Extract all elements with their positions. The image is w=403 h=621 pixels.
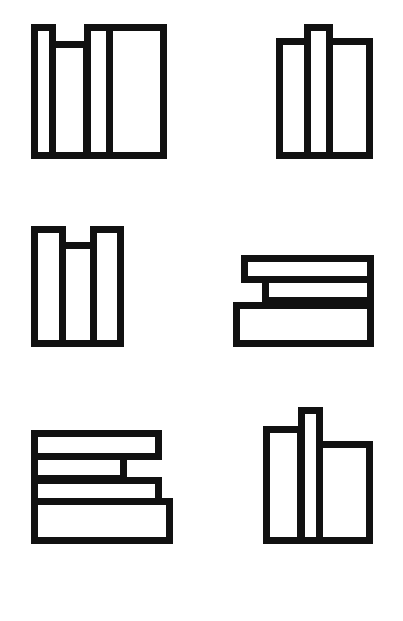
figure-1 bbox=[31, 24, 167, 159]
figure-6-block-3-interior bbox=[323, 448, 366, 537]
figure-3-block-1-interior bbox=[38, 233, 59, 340]
figure-6-block-2-interior bbox=[305, 414, 316, 537]
figures-group bbox=[31, 24, 374, 544]
figure-5-block-3-interior bbox=[38, 484, 155, 498]
figure-4-block-3-interior bbox=[240, 309, 367, 340]
figure-3-block-3-interior bbox=[97, 233, 117, 340]
figure-2-block-2-interior bbox=[311, 31, 326, 152]
figure-4-block-2-interior bbox=[269, 283, 367, 297]
figure-2-block-1-interior bbox=[283, 45, 304, 152]
figure-1-block-2-interior bbox=[56, 48, 83, 152]
figure-2 bbox=[276, 24, 373, 159]
figure-3-block-2-interior bbox=[66, 249, 90, 340]
figure-5-block-1-interior bbox=[38, 437, 155, 453]
figure-2-block-3-interior bbox=[333, 45, 366, 152]
figure-1-block-3-interior bbox=[91, 31, 106, 152]
figure-5-block-2-interior bbox=[38, 460, 120, 475]
figure-3 bbox=[31, 226, 124, 347]
figure-5-block-4-interior bbox=[38, 505, 166, 537]
block-figures-diagram bbox=[0, 0, 403, 621]
figure-4-block-1-interior bbox=[248, 262, 367, 276]
diagram-canvas bbox=[0, 0, 403, 621]
figure-4 bbox=[233, 255, 374, 347]
figure-6-block-1-interior bbox=[270, 433, 297, 537]
figure-6 bbox=[263, 407, 373, 544]
figure-5 bbox=[31, 430, 173, 544]
figure-1-block-4-interior bbox=[113, 31, 160, 152]
figure-1-block-1-interior bbox=[38, 31, 49, 152]
